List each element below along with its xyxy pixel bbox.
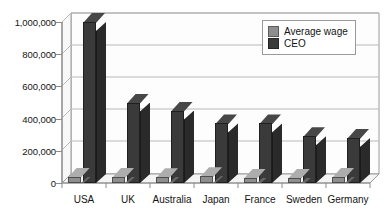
bar-chart: 0200,000400,000600,000800,0001,000,000 U… [0, 0, 388, 212]
bar-side [228, 123, 238, 183]
bar-usa-ceo [83, 13, 96, 183]
bar-face [303, 136, 316, 183]
bar-australia-average-wage [156, 168, 169, 183]
bar-japan-average-wage [200, 167, 213, 183]
bar-face [200, 176, 213, 183]
bar-face [332, 177, 345, 183]
chart-legend: Average wageCEO [262, 20, 356, 55]
bar-side [272, 123, 282, 183]
legend-swatch-icon [268, 26, 279, 37]
legend-swatch-icon [268, 38, 279, 49]
bar-germany-average-wage [332, 168, 345, 183]
legend-item-ceo: CEO [268, 38, 348, 49]
bar-face [68, 177, 81, 183]
legend-label: CEO [284, 38, 306, 49]
bar-side [360, 138, 370, 183]
bar-side [184, 111, 194, 183]
x-tick-label-japan: Japan [202, 194, 229, 205]
bar-sweden-ceo [303, 127, 316, 183]
bar-face [83, 22, 96, 183]
legend-item-average-wage: Average wage [268, 26, 348, 37]
bar-face [244, 178, 257, 183]
x-tick-label-uk: UK [121, 194, 135, 205]
bar-france-average-wage [244, 169, 257, 183]
bar-side [140, 103, 150, 184]
x-tick-label-germany: Germany [327, 194, 368, 205]
x-tick-label-usa: USA [74, 194, 95, 205]
x-tick-label-sweden: Sweden [286, 194, 322, 205]
bar-face [215, 123, 228, 183]
bar-uk-average-wage [112, 168, 125, 183]
bar-sweden-average-wage [288, 169, 301, 183]
bar-face [156, 177, 169, 183]
legend-label: Average wage [284, 26, 348, 37]
bar-germany-ceo [347, 129, 360, 183]
bar-side [96, 22, 106, 183]
x-axis: USAUKAustraliaJapanFranceSwedenGermany [0, 185, 388, 211]
bar-face [288, 178, 301, 183]
x-tick-label-australia: Australia [153, 194, 192, 205]
x-tick-label-france: France [244, 194, 275, 205]
bar-face [112, 177, 125, 183]
bar-usa-average-wage [68, 168, 81, 183]
bar-side [316, 136, 326, 183]
